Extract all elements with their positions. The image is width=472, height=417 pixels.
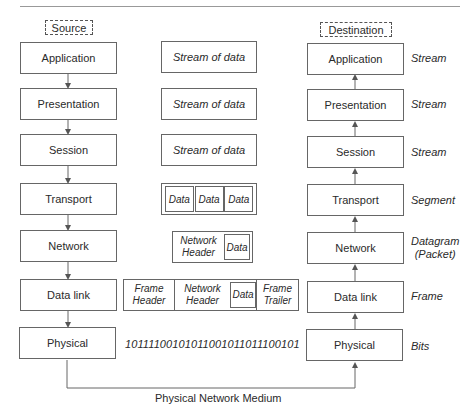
- unit-label: Stream of data: [173, 144, 245, 156]
- segment-data-cell: Data: [195, 186, 224, 212]
- pdu-presentation: Stream: [411, 98, 446, 111]
- frame-header: FrameHeader: [124, 280, 175, 310]
- bit-stream: 10111100101011001011011100101: [125, 338, 300, 350]
- pdu-physical: Bits: [411, 340, 429, 353]
- layer-label: Network: [48, 240, 88, 252]
- dest-session-layer: Session: [307, 136, 404, 168]
- layer-label: Transport: [332, 194, 379, 206]
- stream-unit-application: Stream of data: [161, 41, 257, 73]
- unit-label: Stream of data: [173, 51, 245, 63]
- source-network-layer: Network: [20, 230, 117, 262]
- layer-label: Presentation: [38, 98, 100, 110]
- stream-unit-presentation: Stream of data: [161, 88, 257, 120]
- source-tag: Source: [45, 20, 93, 35]
- layer-label: Physical: [334, 339, 375, 351]
- segment-unit: Data Data Data: [161, 183, 257, 215]
- source-physical-layer: Physical: [19, 327, 116, 359]
- frame-trailer: FrameTrailer: [257, 280, 298, 310]
- source-application-layer: Application: [20, 42, 117, 74]
- pdu-network-line1: Datagram: [411, 235, 459, 248]
- pdu-network: Datagram (Packet): [411, 235, 459, 261]
- pdu-application: Stream: [411, 52, 446, 65]
- layer-label: Physical: [47, 337, 88, 349]
- dest-network-layer: Network: [307, 232, 404, 264]
- packet-data: Data: [224, 234, 250, 260]
- source-datalink-layer: Data link: [20, 279, 117, 311]
- packet-network-header: NetworkHeader: [173, 235, 224, 259]
- source-session-layer: Session: [20, 134, 117, 166]
- destination-label: Destination: [328, 24, 383, 36]
- segment-data-cell: Data: [224, 186, 253, 212]
- segment-data-cell: Data: [165, 186, 194, 212]
- layer-label: Data link: [47, 289, 90, 301]
- source-transport-layer: Transport: [20, 183, 117, 215]
- layer-label: Session: [336, 146, 375, 158]
- dest-presentation-layer: Presentation: [307, 89, 404, 121]
- destination-tag: Destination: [320, 22, 392, 37]
- dest-transport-layer: Transport: [307, 184, 404, 216]
- pdu-transport: Segment: [411, 194, 455, 207]
- dest-datalink-layer: Data link: [307, 281, 404, 313]
- pdu-network-line2: (Packet): [411, 248, 459, 261]
- frame-unit: FrameHeader NetworkHeader Data FrameTrai…: [123, 279, 299, 311]
- layer-label: Transport: [45, 193, 92, 205]
- packet-unit: NetworkHeader Data: [172, 231, 253, 263]
- pdu-session: Stream: [411, 146, 446, 159]
- dest-application-layer: Application: [307, 43, 404, 75]
- layer-label: Application: [42, 52, 96, 64]
- layer-label: Session: [49, 144, 88, 156]
- pdu-datalink: Frame: [411, 290, 443, 303]
- layer-label: Network: [335, 242, 375, 254]
- layer-label: Data link: [334, 291, 377, 303]
- source-presentation-layer: Presentation: [20, 88, 117, 120]
- frame-data: Data: [230, 282, 256, 308]
- layer-label: Presentation: [325, 99, 387, 111]
- stream-unit-session: Stream of data: [161, 134, 257, 166]
- frame-data-wrap: Data: [230, 280, 257, 310]
- dest-physical-layer: Physical: [306, 329, 403, 361]
- source-label: Source: [52, 22, 87, 34]
- frame-network-header: NetworkHeader: [175, 280, 230, 310]
- unit-label: Stream of data: [173, 98, 245, 110]
- layer-label: Application: [329, 53, 383, 65]
- physical-medium-label: Physical Network Medium: [155, 392, 282, 404]
